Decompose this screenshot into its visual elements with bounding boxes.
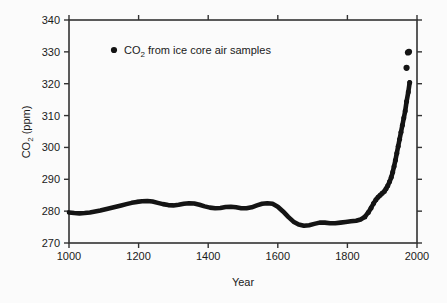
x-tick-label: 1200 bbox=[126, 250, 150, 262]
data-point bbox=[406, 49, 412, 55]
x-tick-label: 2000 bbox=[405, 250, 429, 262]
y-tick-label: 310 bbox=[42, 110, 60, 122]
data-point bbox=[403, 65, 409, 71]
y-tick-label: 340 bbox=[42, 14, 60, 26]
chart-figure: 100012001400160018002000 270280290300310… bbox=[0, 0, 447, 303]
x-axis-title: Year bbox=[232, 276, 255, 288]
y-tick-label: 290 bbox=[42, 173, 60, 185]
x-tick-label: 1800 bbox=[335, 250, 359, 262]
x-tick-label: 1600 bbox=[266, 250, 290, 262]
x-axis-title-text: Year bbox=[232, 276, 255, 288]
y-tick-label: 300 bbox=[42, 141, 60, 153]
legend-marker-icon bbox=[111, 47, 117, 53]
chart-canvas: 100012001400160018002000 270280290300310… bbox=[0, 0, 447, 303]
x-tick-label: 1000 bbox=[57, 250, 81, 262]
y-tick-label: 280 bbox=[42, 205, 60, 217]
y-tick-label: 270 bbox=[42, 237, 60, 249]
x-tick-label: 1400 bbox=[196, 250, 220, 262]
y-tick-label: 330 bbox=[42, 46, 60, 58]
y-tick-label: 320 bbox=[42, 78, 60, 90]
